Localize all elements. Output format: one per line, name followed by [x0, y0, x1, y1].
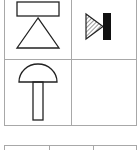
next-table	[4, 145, 137, 150]
column-divider	[49, 146, 50, 150]
cell-empty	[72, 60, 136, 125]
diode-symbol-icon	[72, 0, 136, 59]
mushroom-button-symbol-icon	[5, 60, 71, 125]
ground-symbol-icon	[5, 0, 71, 59]
cell-mushroom-button-symbol	[5, 60, 71, 125]
cell-ground-symbol	[5, 0, 71, 59]
column-divider	[93, 146, 94, 150]
cell-diode-symbol	[72, 0, 136, 59]
symbol-table	[4, 0, 137, 126]
